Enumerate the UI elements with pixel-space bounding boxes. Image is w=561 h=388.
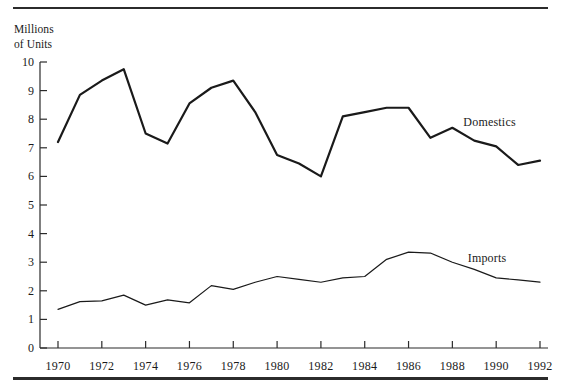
y-axis-tick-label: 6 (12, 170, 34, 182)
y-axis-tick-label: 9 (12, 85, 34, 97)
series-label-imports: Imports (468, 252, 507, 264)
x-axis-tick-label: 1992 (510, 360, 561, 372)
y-axis-tick-label: 1 (12, 313, 34, 325)
y-axis-tick-label: 3 (12, 256, 34, 268)
y-axis-tick-label: 2 (12, 285, 34, 297)
y-axis-tick-label: 10 (12, 56, 34, 68)
figure-container: Millions of Units 012345678910 197019721… (0, 0, 561, 388)
y-axis-tick-label: 8 (12, 113, 34, 125)
y-axis-tick-label: 5 (12, 199, 34, 211)
line-chart-plot (0, 0, 561, 388)
series-label-domestics: Domestics (463, 116, 515, 128)
x-axis-ticks (58, 341, 540, 348)
y-axis-ticks (40, 62, 47, 348)
data-series-group (58, 69, 540, 309)
y-axis-tick-label: 0 (12, 342, 34, 354)
axes-group (40, 62, 548, 348)
y-axis-tick-label: 7 (12, 142, 34, 154)
y-axis-tick-label: 4 (12, 228, 34, 240)
